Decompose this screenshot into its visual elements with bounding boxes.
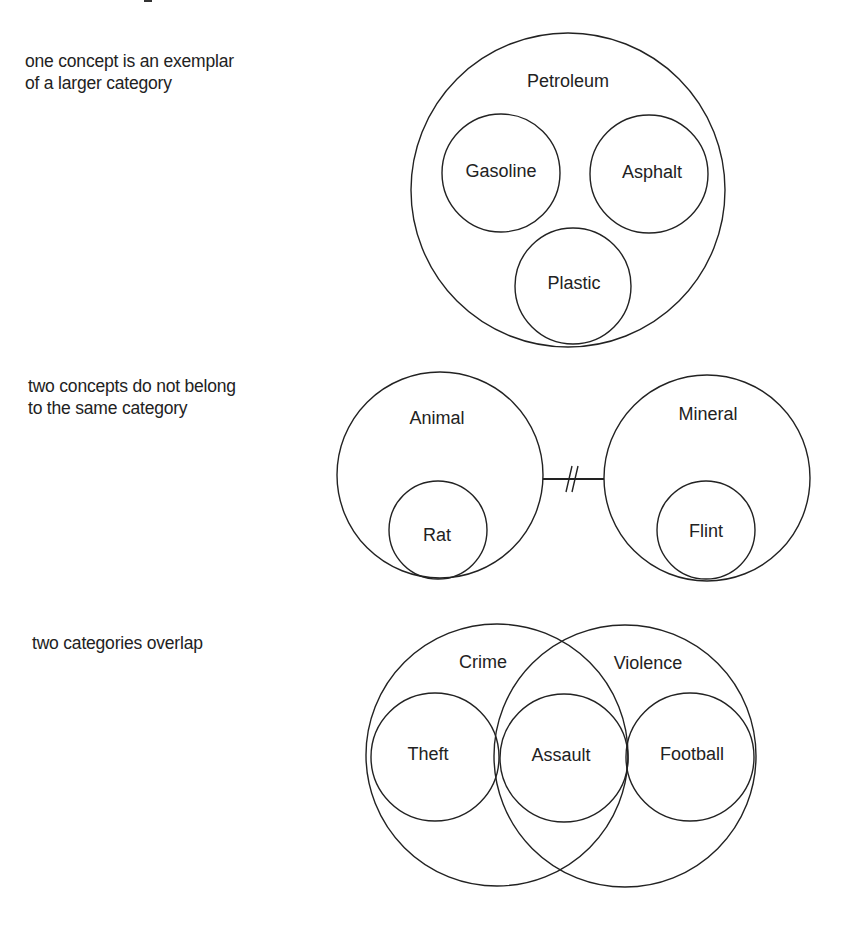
member-label-plastic: Plastic [547, 273, 600, 293]
member-label-flint: Flint [689, 521, 723, 541]
panel-overlap: Crime Violence Crime Theft Assault Footb… [366, 624, 756, 887]
category-label-violence: Violence [614, 653, 683, 673]
category-label-animal: Animal [409, 408, 464, 428]
category-label-crime: Crime [459, 652, 507, 672]
panel-exemplar: Petroleum Gasoline Asphalt Plastic [411, 33, 725, 347]
panel-disjoint: Animal Rat Mineral Flint [337, 372, 810, 581]
member-label-asphalt: Asphalt [622, 162, 682, 182]
member-label-gasoline: Gasoline [465, 161, 536, 181]
category-circle-animal [337, 372, 543, 578]
category-label-petroleum: Petroleum [527, 71, 609, 91]
concept-diagram: Petroleum Gasoline Asphalt Plastic Anima… [0, 0, 848, 929]
member-label-theft: Theft [407, 744, 448, 764]
category-label-mineral: Mineral [678, 404, 737, 424]
member-label-football: Football [660, 744, 724, 764]
member-label-assault: Assault [531, 745, 590, 765]
member-label-rat: Rat [423, 525, 451, 545]
